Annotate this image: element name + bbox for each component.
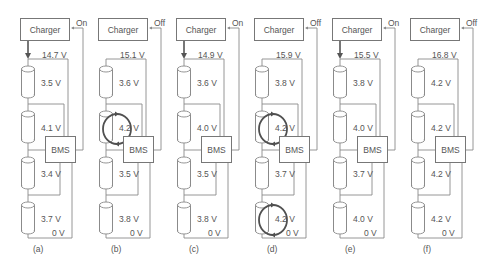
ground-voltage-label: 0 V (52, 229, 65, 238)
battery-cell-icon (256, 66, 269, 98)
cell-voltage-label: 3.7 V (353, 170, 373, 179)
cell-voltage-label: 3.5 V (41, 79, 61, 88)
cell-voltage-label: 3.8 V (275, 79, 295, 88)
pack-voltage-label: 15.5 V (354, 51, 379, 60)
bms-label: BMS (441, 145, 459, 155)
bms-label: BMS (129, 145, 147, 155)
cell-voltage-label: 3.6 V (119, 79, 139, 88)
cell-voltage-label: 4.1 V (41, 124, 61, 133)
charger-label: Charger (186, 25, 217, 35)
battery-cell-icon (100, 157, 113, 189)
battery-cell-icon (22, 66, 35, 98)
battery-cell-icon (178, 66, 191, 98)
panel-c: ChargerOn14.9 V3.6 V4.0 V3.5 V3.8 VBMS0 … (173, 0, 253, 272)
bms-box: BMS (357, 136, 388, 163)
panel-caption: (c) (189, 245, 199, 254)
pack-voltage-label: 15.9 V (276, 51, 301, 60)
ground-voltage-label: 0 V (130, 229, 143, 238)
battery-cell-icon (22, 157, 35, 189)
bms-label: BMS (207, 145, 225, 155)
charger-state-label: On (76, 19, 87, 28)
bms-label: BMS (51, 145, 69, 155)
battery-cell-icon (256, 157, 269, 189)
panel-a: ChargerOn14.7 V3.5 V4.1 V3.4 V3.7 VBMS0 … (17, 0, 97, 272)
charger-box: Charger (98, 18, 148, 41)
cell-voltage-label: 4.2 V (431, 79, 451, 88)
bms-box: BMS (123, 136, 154, 163)
charger-box: Charger (20, 18, 70, 41)
cell-voltage-label: 4.0 V (353, 215, 373, 224)
cell-voltage-label: 4.2 V (431, 124, 451, 133)
pack-voltage-label: 15.1 V (120, 51, 145, 60)
charger-box: Charger (254, 18, 304, 41)
bms-box: BMS (201, 136, 232, 163)
cell-voltage-label: 4.2 V (275, 124, 295, 133)
panel-d: ChargerOff15.9 V3.8 V4.2 V3.7 V4.2 VBMS0… (251, 0, 331, 272)
charger-label: Charger (108, 25, 139, 35)
charger-state-label: On (388, 19, 399, 28)
cell-voltage-label: 3.7 V (275, 170, 295, 179)
cell-voltage-label: 3.5 V (119, 170, 139, 179)
charger-box: Charger (410, 18, 460, 41)
cell-voltage-label: 4.2 V (275, 215, 295, 224)
panel-caption: (e) (345, 245, 355, 254)
cell-voltage-label: 3.5 V (197, 170, 217, 179)
pack-voltage-label: 16.8 V (432, 51, 457, 60)
battery-cell-icon (178, 111, 191, 143)
battery-cell-icon (22, 202, 35, 234)
battery-cell-icon (412, 111, 425, 143)
cell-voltage-label: 4.2 V (431, 170, 451, 179)
battery-cell-icon (412, 202, 425, 234)
battery-balancing-figure: ChargerOn14.7 V3.5 V4.1 V3.4 V3.7 VBMS0 … (0, 0, 500, 272)
cell-voltage-label: 4.2 V (431, 215, 451, 224)
pack-voltage-label: 14.9 V (198, 51, 223, 60)
charger-label: Charger (342, 25, 373, 35)
bms-box: BMS (45, 136, 76, 163)
cell-voltage-label: 4.2 V (119, 124, 139, 133)
ground-voltage-label: 0 V (364, 229, 377, 238)
ground-voltage-label: 0 V (286, 229, 299, 238)
panel-e: ChargerOn15.5 V3.8 V4.0 V3.7 V4.0 VBMS0 … (329, 0, 409, 272)
panel-f: ChargerOff16.8 V4.2 V4.2 V4.2 V4.2 VBMS0… (407, 0, 487, 272)
ground-voltage-label: 0 V (208, 229, 221, 238)
cell-voltage-label: 3.6 V (197, 79, 217, 88)
bms-box: BMS (435, 136, 466, 163)
cell-voltage-label: 4.0 V (353, 124, 373, 133)
cell-voltage-label: 3.7 V (41, 215, 61, 224)
battery-cell-icon (22, 111, 35, 143)
cell-voltage-label: 3.8 V (353, 79, 373, 88)
charger-box: Charger (332, 18, 382, 41)
charger-box: Charger (176, 18, 226, 41)
cell-voltage-label: 4.0 V (197, 124, 217, 133)
panel-b: ChargerOff15.1 V3.6 V4.2 V3.5 V3.8 VBMS0… (95, 0, 175, 272)
bms-label: BMS (363, 145, 381, 155)
panel-caption: (f) (423, 245, 431, 254)
battery-cell-icon (412, 66, 425, 98)
cell-voltage-label: 3.8 V (119, 215, 139, 224)
charger-label: Charger (264, 25, 295, 35)
battery-cell-icon (334, 66, 347, 98)
charger-label: Charger (30, 25, 61, 35)
battery-cell-icon (334, 202, 347, 234)
battery-cell-icon (178, 202, 191, 234)
battery-cell-icon (178, 157, 191, 189)
battery-cell-icon (412, 157, 425, 189)
battery-cell-icon (334, 157, 347, 189)
cell-voltage-label: 3.4 V (41, 170, 61, 179)
battery-cell-icon (100, 66, 113, 98)
cell-voltage-label: 3.8 V (197, 215, 217, 224)
ground-voltage-label: 0 V (442, 229, 455, 238)
charger-state-label: Off (466, 19, 477, 28)
charger-state-label: On (232, 19, 243, 28)
panel-caption: (d) (267, 245, 277, 254)
panel-caption: (b) (111, 245, 121, 254)
bms-box: BMS (279, 136, 310, 163)
charger-state-label: Off (310, 19, 321, 28)
bms-label: BMS (285, 145, 303, 155)
charger-label: Charger (420, 25, 451, 35)
panel-caption: (a) (33, 245, 43, 254)
pack-voltage-label: 14.7 V (42, 51, 67, 60)
charger-state-label: Off (154, 19, 165, 28)
battery-cell-icon (100, 202, 113, 234)
battery-cell-icon (334, 111, 347, 143)
